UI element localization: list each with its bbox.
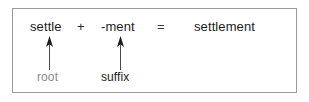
diagram-frame: settle + -ment = settlement root suffix xyxy=(12,8,297,93)
equation-plus-sign: + xyxy=(77,20,85,34)
equation-suffix-word: -ment xyxy=(101,20,135,34)
equation-equals-sign: = xyxy=(157,20,165,34)
arrow-up-icon-suffix xyxy=(116,36,125,70)
equation-result-word: settlement xyxy=(194,20,255,34)
annotation-label-root: root xyxy=(37,71,58,84)
equation-root-word: settle xyxy=(30,20,62,34)
arrow-up-icon-root xyxy=(45,36,54,70)
annotation-label-suffix: suffix xyxy=(101,71,129,84)
